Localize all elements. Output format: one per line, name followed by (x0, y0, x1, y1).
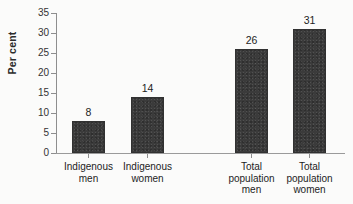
y-tick-label: 20 (24, 68, 49, 78)
x-tick-mark (251, 154, 252, 158)
y-axis-line (56, 13, 57, 153)
y-tick-label: 35 (24, 8, 49, 18)
bar-value-label: 8 (72, 107, 105, 118)
y-tick-label: 5 (24, 128, 49, 138)
x-category-label-total-population-women: Total population women (271, 161, 348, 196)
bar-value-label: 14 (131, 83, 164, 94)
bar-total-population-women[interactable] (293, 29, 326, 153)
y-tick-label: 10 (24, 108, 49, 118)
x-tick-mark (309, 154, 310, 158)
bar-chart: Per cent 35 30 25 20 15 10 5 0 8 14 (0, 0, 353, 204)
y-axis-title: Per cent (5, 17, 19, 89)
y-tick-mark (51, 133, 56, 134)
bar-indigenous-women[interactable] (131, 97, 164, 153)
x-axis-line (56, 153, 345, 154)
y-tick-mark (51, 93, 56, 94)
y-tick-mark (51, 53, 56, 54)
y-tick-label: 15 (24, 88, 49, 98)
bar-value-label: 31 (293, 15, 326, 26)
y-tick-mark (51, 113, 56, 114)
x-tick-mark (88, 154, 89, 158)
bar-indigenous-men[interactable] (72, 121, 105, 153)
y-tick-mark (51, 33, 56, 34)
x-tick-mark (147, 154, 148, 158)
y-tick-mark (51, 73, 56, 74)
y-tick-label: 30 (24, 28, 49, 38)
x-category-label-indigenous-women: Indigenous women (109, 161, 186, 184)
plot-area: 35 30 25 20 15 10 5 0 8 14 26 31 Indigen… (56, 13, 345, 153)
y-tick-label: 0 (24, 148, 49, 158)
y-tick-mark (51, 153, 56, 154)
bar-total-population-men[interactable] (235, 49, 268, 153)
y-tick-label: 25 (24, 48, 49, 58)
y-tick-mark (51, 13, 56, 14)
bar-value-label: 26 (235, 35, 268, 46)
